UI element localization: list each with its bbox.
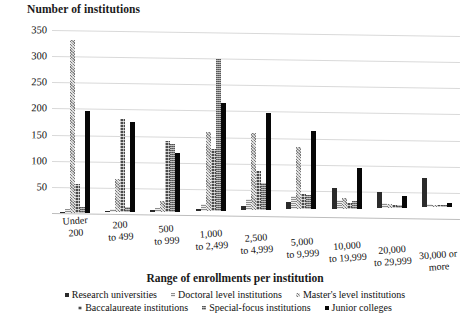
bar (402, 196, 407, 208)
y-axis-tick-label: 200 (31, 103, 47, 114)
legend-label: Doctoral level institutions (178, 289, 282, 300)
legend-swatch-icon (171, 293, 175, 297)
legend-item[interactable]: Research universities (65, 289, 157, 300)
plot-area: 50100150200250300350 (52, 30, 460, 213)
bar-group (279, 26, 324, 213)
legend-swatch-icon (325, 306, 329, 310)
bar-group (97, 29, 142, 213)
legend-item[interactable]: Baccalaureate institutions (78, 302, 188, 313)
bar (175, 153, 180, 212)
legend-label: Master's level institutions (303, 289, 405, 300)
legend-item[interactable]: Special-focus institutions (202, 302, 310, 313)
bar (120, 119, 125, 212)
bar (422, 178, 427, 207)
bar (221, 103, 226, 211)
legend-label: Junior colleges (332, 302, 392, 313)
bar-group (369, 25, 414, 213)
legend-label: Research universities (72, 289, 157, 300)
bar-group (324, 26, 369, 214)
bar-group (415, 24, 460, 213)
legend-item[interactable]: Master's level institutions (296, 289, 405, 300)
y-axis-tick-label: 100 (31, 155, 47, 166)
bar (357, 168, 362, 209)
legend-item[interactable]: Junior colleges (325, 302, 392, 313)
y-axis-tick-label: 350 (31, 24, 47, 35)
bar (130, 122, 135, 212)
bar-group (143, 29, 188, 214)
x-axis-title: Range of enrollments per institution (0, 272, 470, 284)
legend-row: Research universitiesDoctoral level inst… (65, 289, 405, 300)
bar (447, 203, 452, 207)
bar (266, 113, 271, 210)
bar (85, 111, 90, 213)
legend-swatch-icon (65, 293, 69, 297)
bar-chart: Number of institutions 50100150200250300… (0, 0, 470, 324)
bar-groups (52, 30, 460, 213)
y-axis-tick-label: 150 (31, 129, 47, 140)
legend-row: Baccalaureate institutionsSpecial-focus … (78, 302, 392, 313)
legend-label: Special-focus institutions (209, 302, 310, 313)
legend: Research universitiesDoctoral level inst… (0, 289, 470, 313)
y-axis-tick-label: 300 (31, 50, 47, 61)
x-axis-tick-labels: Under200200to 499500to 9991,000to 2,4992… (52, 213, 460, 271)
y-axis-title: Number of institutions (27, 3, 140, 15)
legend-label: Baccalaureate institutions (85, 302, 188, 313)
bar (311, 131, 316, 209)
legend-swatch-icon (296, 293, 300, 297)
y-axis-tick-label: 250 (31, 76, 47, 87)
bar-group (52, 30, 97, 213)
x-axis-tick-label: 30,000 ormore (407, 246, 470, 273)
y-axis-tick-label: 50 (36, 181, 47, 192)
bar-group (188, 28, 233, 213)
legend-swatch-icon (78, 306, 82, 310)
legend-item[interactable]: Doctoral level institutions (171, 289, 282, 300)
legend-swatch-icon (202, 306, 206, 310)
bar-group (233, 27, 278, 213)
